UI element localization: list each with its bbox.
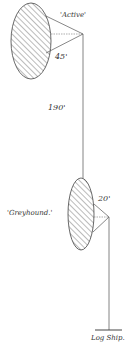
kite-greyhound-label: 'Greyhound.' <box>7 209 52 217</box>
bridle-upper-line <box>94 204 109 217</box>
kite-greyhound-line-length: 20' <box>97 194 110 203</box>
kite-active: 'Active' 45' <box>11 3 86 79</box>
kite-rigging-diagram: 'Active' 45' 190' 'Greyhound.' 20' Log S… <box>0 0 135 347</box>
bridle-lower-line <box>93 217 109 232</box>
log-ship-label: Log Ship. <box>90 334 125 342</box>
bridle-lower-line <box>46 34 83 53</box>
kite-greyhound-body <box>68 178 94 250</box>
kite-active-body <box>11 3 51 79</box>
kite-active-line-length: 45' <box>54 52 67 61</box>
kite-active-label: 'Active' <box>60 11 86 19</box>
kite-greyhound: 'Greyhound.' 20' <box>7 178 110 250</box>
tether-length-label: 190' <box>48 103 65 112</box>
